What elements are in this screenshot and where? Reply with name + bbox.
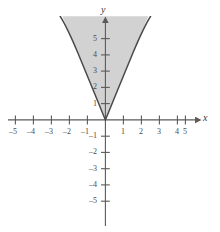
x-tick-label--1: –1: [81, 128, 89, 136]
y-tick-label-3: 3: [93, 67, 97, 75]
x-tick-label--4: –4: [27, 128, 35, 136]
x-tick-label--2: –2: [63, 128, 71, 136]
parabola-graph-figure: –5 –4 –3 –2 –1 1 2 3 4 5 5 4 3 2 1 –1 –2…: [0, 0, 220, 232]
x-tick-label--5: –5: [9, 128, 17, 136]
x-tick-label-1: 1: [121, 128, 125, 136]
y-tick-label--2: –2: [89, 148, 97, 156]
y-tick-label--4: –4: [89, 181, 97, 189]
coordinate-plane-svg: [0, 0, 220, 232]
y-tick-label--1: –1: [89, 132, 97, 140]
y-tick-label--5: –5: [89, 197, 97, 205]
x-tick-label-4: 4: [175, 128, 179, 136]
x-axis-label: x: [203, 113, 207, 123]
x-tick-label-5: 5: [183, 128, 187, 136]
y-tick-label--3: –3: [89, 165, 97, 173]
y-axis-label: y: [101, 5, 105, 15]
y-tick-label-5: 5: [93, 35, 97, 43]
y-tick-label-2: 2: [93, 83, 97, 91]
x-tick-label-2: 2: [139, 128, 143, 136]
x-tick-label--3: –3: [45, 128, 53, 136]
y-tick-label-4: 4: [93, 51, 97, 59]
y-tick-label-1: 1: [93, 100, 97, 108]
x-tick-label-3: 3: [157, 128, 161, 136]
